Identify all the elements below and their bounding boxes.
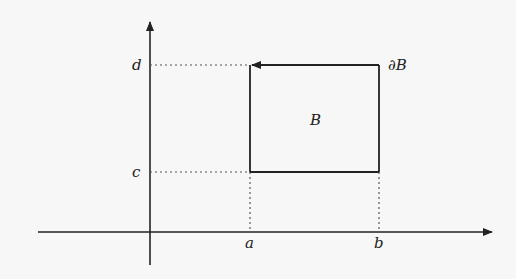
- label-d: d: [132, 56, 142, 74]
- label-c: c: [132, 163, 141, 181]
- label-b: b: [374, 234, 384, 252]
- diagram-canvas: d c a b B ∂B: [0, 0, 516, 279]
- boundary-label: ∂B: [388, 56, 407, 74]
- region-label: B: [309, 111, 321, 129]
- label-a: a: [245, 234, 254, 252]
- guide-lines: [150, 65, 379, 232]
